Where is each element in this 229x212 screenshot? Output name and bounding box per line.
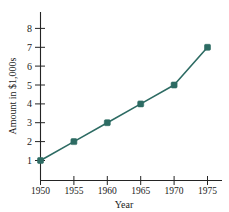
x-tick-label: 1975	[198, 186, 217, 196]
data-point-marker	[71, 139, 77, 145]
y-axis-title: Amount in $1,000s	[7, 57, 18, 134]
y-tick-label: 8	[27, 23, 32, 34]
y-tick-label: 2	[27, 136, 32, 147]
x-tick-label: 1955	[64, 186, 83, 196]
data-point-marker	[171, 82, 177, 88]
x-axis-title: Year	[115, 199, 134, 210]
x-tick-label: 1960	[98, 186, 117, 196]
chart-canvas: 1 2 3 4 5 6 7 8 1950 1955 1960 1965 1970…	[0, 0, 229, 212]
data-point-marker	[38, 158, 44, 164]
x-tick-label: 1965	[131, 186, 150, 196]
data-point-marker	[138, 101, 144, 107]
y-tick-label: 6	[27, 61, 32, 72]
y-tick-label: 1	[27, 155, 32, 166]
y-tick-label: 3	[27, 117, 32, 128]
x-tick-label: 1950	[31, 186, 50, 196]
data-point-marker	[104, 120, 110, 126]
line-chart: 1 2 3 4 5 6 7 8 1950 1955 1960 1965 1970…	[0, 0, 229, 212]
y-tick-label: 7	[27, 42, 32, 53]
y-tick-label: 4	[27, 98, 32, 109]
x-tick-label: 1970	[165, 186, 184, 196]
data-point-marker	[205, 44, 211, 50]
y-tick-label: 5	[27, 80, 32, 91]
